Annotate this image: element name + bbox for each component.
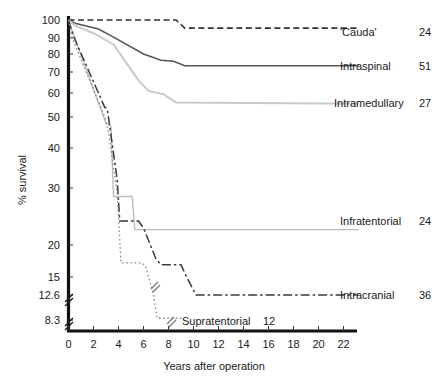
- y-axis-title: % survival: [16, 155, 28, 205]
- y-tick-label: 12.6: [39, 289, 60, 301]
- y-tick-label: 90: [48, 32, 60, 44]
- series-line-infratentorial: [69, 20, 359, 230]
- y-tick-label: 30: [48, 182, 60, 194]
- legend-label-intracranial: Intracranial: [340, 289, 394, 301]
- legend-count-cauda: 24: [419, 26, 431, 38]
- legend-count-intraspinal: 51: [419, 60, 431, 72]
- chart-canvas: 100 90 80 70 60 50 40 30 20 15 12.6 8.3: [0, 0, 437, 381]
- legend-label-supratentorial: Supratentorial: [182, 315, 251, 327]
- legend-count-supratentorial: 12: [263, 315, 275, 327]
- survival-chart-figure: 100 90 80 70 60 50 40 30 20 15 12.6 8.3: [0, 0, 437, 381]
- legend-label-intraspinal: Intraspinal: [340, 60, 391, 72]
- x-axis-title: Years after operation: [163, 360, 265, 372]
- y-tick-label: 60: [48, 87, 60, 99]
- data-curves-group: [69, 20, 359, 318]
- y-tick-label: 40: [48, 142, 60, 154]
- x-tick-label: 22: [337, 338, 349, 350]
- y-tick-label: 50: [48, 111, 60, 123]
- legend-label-intramedullary: Intramedullary: [334, 97, 404, 109]
- x-tick-label: 0: [65, 338, 71, 350]
- series-line-intramedullary: [69, 20, 359, 104]
- y-tick-label: 100: [42, 14, 60, 26]
- x-tick-labels: 0 2 4 6 8 10 12 14 16 18 20 22: [65, 338, 349, 350]
- series-line-cauda: [69, 20, 359, 28]
- y-tick-label: 80: [48, 48, 60, 60]
- x-tick-label: 4: [115, 338, 121, 350]
- x-tick-label: 12: [212, 338, 224, 350]
- y-tick-label: 70: [48, 66, 60, 78]
- y-tick-label: 8.3: [45, 314, 60, 326]
- x-tick-label: 18: [287, 338, 299, 350]
- legend-group: 'Cauda' 24 Intraspinal 51 Intramedullary…: [182, 26, 431, 327]
- x-tick-label: 20: [312, 338, 324, 350]
- x-tick-label: 10: [187, 338, 199, 350]
- x-tick-label: 16: [262, 338, 274, 350]
- x-tick-label: 14: [237, 338, 249, 350]
- x-tick-label: 8: [165, 338, 171, 350]
- axis-group: [67, 16, 357, 332]
- x-tick-label: 2: [90, 338, 96, 350]
- legend-label-cauda: 'Cauda': [340, 26, 377, 38]
- legend-count-infratentorial: 24: [419, 215, 431, 227]
- x-tick-label: 6: [140, 338, 146, 350]
- y-tick-label: 20: [48, 239, 60, 251]
- legend-count-intramedullary: 27: [419, 97, 431, 109]
- y-tick-label: 15: [48, 271, 60, 283]
- legend-count-intracranial: 36: [419, 289, 431, 301]
- legend-label-infratentorial: Infratentorial: [340, 215, 401, 227]
- y-tick-labels: 100 90 80 70 60 50 40 30 20 15 12.6 8.3: [39, 14, 60, 326]
